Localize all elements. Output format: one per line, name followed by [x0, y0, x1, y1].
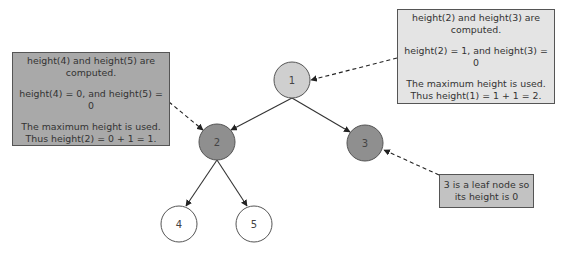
note-text: computed.: [15, 67, 167, 79]
tree-node-4: 4: [161, 206, 197, 242]
callout-arrow-node-1: [311, 58, 397, 80]
note-text: computed.: [400, 24, 552, 36]
callout-arrow-node-3: [384, 150, 439, 175]
note-text: height(2) = 1, and height(3) = 0: [400, 45, 552, 68]
callout-arrow-node-2: [169, 102, 203, 130]
edge-1-2: [231, 98, 292, 130]
note-text: The maximum height is used.: [400, 78, 552, 90]
edge-2-4: [186, 160, 217, 206]
node-label-1: 1: [289, 75, 295, 86]
note-leaf-node-3: 3 is a leaf node so its height is 0: [439, 174, 534, 208]
note-height-node-1: height(2) and height(3) are computed. he…: [397, 9, 555, 104]
note-text: height(4) = 0, and height(5) = 0: [15, 88, 167, 111]
tree-node-3: 3: [347, 125, 383, 161]
tree-node-2: 2: [199, 124, 235, 160]
note-text: its height is 0: [442, 191, 531, 203]
edge-1-3: [292, 98, 350, 132]
tree-node-5: 5: [236, 206, 272, 242]
note-text: Thus height(1) = 1 + 1 = 2.: [400, 90, 552, 102]
note-text: height(2) and height(3) are: [400, 12, 552, 24]
note-text: height(4) and height(5) are: [15, 55, 167, 67]
node-label-2: 2: [214, 137, 220, 148]
node-label-3: 3: [362, 138, 368, 149]
node-label-5: 5: [251, 219, 257, 230]
note-text: Thus height(2) = 0 + 1 = 1.: [15, 133, 167, 145]
note-height-node-2: height(4) and height(5) are computed. he…: [12, 52, 170, 146]
note-text: 3 is a leaf node so: [442, 179, 531, 191]
tree-node-1: 1: [274, 62, 310, 98]
edge-2-5: [217, 160, 247, 206]
note-text: The maximum height is used.: [15, 121, 167, 133]
node-label-4: 4: [176, 219, 182, 230]
